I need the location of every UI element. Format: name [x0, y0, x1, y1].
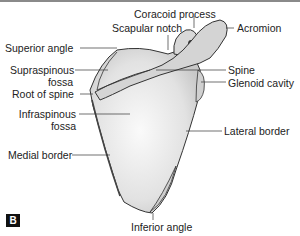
label-infraspinous-line2: fossa	[51, 120, 76, 132]
label-scapular-notch: Scapular notch	[112, 22, 182, 34]
label-superior-angle: Superior angle	[5, 42, 73, 54]
glenoid-cavity	[196, 70, 204, 102]
label-spine: Spine	[228, 64, 255, 76]
label-infraspinous-fossa: Infraspinous fossa	[8, 108, 76, 132]
panel-label-badge: B	[6, 214, 20, 227]
label-infraspinous-line1: Infraspinous	[19, 108, 76, 120]
label-medial-border: Medial border	[8, 149, 72, 161]
label-supraspinous-line2: fossa	[48, 76, 73, 88]
label-acromion: Acromion	[237, 22, 281, 34]
label-root-of-spine: Root of spine	[12, 88, 74, 100]
label-supraspinous-fossa: Supraspinous fossa	[10, 64, 73, 88]
label-supraspinous-line1: Supraspinous	[10, 64, 74, 76]
label-glenoid-cavity: Glenoid cavity	[228, 77, 294, 89]
label-lateral-border: Lateral border	[224, 125, 289, 137]
label-inferior-angle: Inferior angle	[131, 221, 192, 233]
label-coracoid-process: Coracoid process	[134, 8, 216, 20]
